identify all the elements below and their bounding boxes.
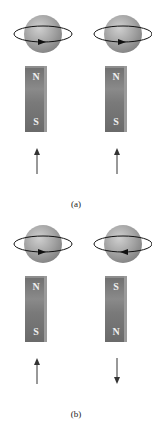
panel-label: (b) [0,409,152,419]
spin-orbit-right-icon [12,24,74,46]
bar-magnet: N S [105,66,127,132]
spin-orbit-left-icon [92,234,152,256]
arrow-up-icon [113,148,121,174]
bar-magnet: S N [105,276,127,342]
spin-orbit-right-icon [12,234,74,256]
panel-b: N S S N (b) [0,210,152,420]
magnet-pole-bottom: S [25,326,47,337]
arrow-up-icon [33,148,41,174]
panel-a: N S N S (a) [0,0,152,210]
spin-orbit-right-icon [92,24,152,46]
panel-label: (a) [0,199,152,209]
magnet-pole-top: N [25,71,47,82]
magnet-pole-bottom: N [105,326,127,337]
magnet-pole-top: S [105,281,127,292]
magnet-pole-bottom: S [105,116,127,127]
magnet-pole-top: N [25,281,47,292]
magnet-pole-bottom: S [25,116,47,127]
magnet-pole-top: N [105,71,127,82]
arrow-down-icon [113,358,121,384]
arrow-up-icon [33,358,41,384]
bar-magnet: N S [25,276,47,342]
bar-magnet: N S [25,66,47,132]
